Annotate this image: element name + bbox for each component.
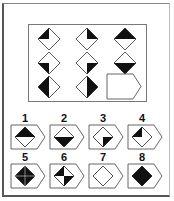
option-6[interactable]: 6 (49, 152, 85, 188)
diamond-top-half-icon (113, 27, 137, 51)
matrix-cell-r2c2 (75, 51, 99, 75)
option-number: 1 (10, 113, 40, 124)
option-number: 3 (88, 113, 118, 124)
diamond-bottom-half-icon (113, 51, 137, 75)
matrix-cell-r2c3 (113, 51, 137, 75)
option-1[interactable]: 1 (10, 113, 46, 149)
diamond-left-half-icon (37, 75, 61, 99)
diamond-bottom-right-quarter-icon (88, 124, 124, 150)
diamond-full-cross-icon (10, 163, 46, 189)
option-4[interactable]: 4 (127, 113, 163, 149)
diamond-full-black-icon (127, 163, 163, 189)
missing-answer-slot (106, 73, 142, 104)
option-8[interactable]: 8 (127, 152, 163, 188)
option-2[interactable]: 2 (49, 113, 85, 149)
matrix-cell-r2c1 (37, 51, 61, 75)
matrix-cell-r3c1 (37, 75, 61, 99)
diamond-top-right-quarter-icon (75, 27, 99, 51)
option-number: 4 (127, 113, 157, 124)
diamond-bottom-left-quarter-icon (37, 51, 61, 75)
matrix-cell-r1c3 (113, 27, 137, 51)
matrix-cell-r1c1 (37, 27, 61, 51)
option-number: 7 (88, 152, 118, 163)
puzzle-matrix (28, 24, 147, 102)
diamond-top-half-icon (10, 124, 46, 150)
option-7[interactable]: 7 (88, 152, 124, 188)
answer-options: 1 2 3 4 (10, 113, 164, 189)
diamond-empty-icon (88, 163, 124, 189)
diamond-bottom-half-icon (49, 124, 85, 150)
option-3[interactable]: 3 (88, 113, 124, 149)
option-number: 2 (49, 113, 79, 124)
diamond-opposite-quarters-icon (49, 163, 85, 189)
diamond-top-left-quarter-icon (127, 124, 163, 150)
option-5[interactable]: 5 (10, 152, 46, 188)
diamond-top-left-quarter-icon (37, 27, 61, 51)
diamond-bottom-right-quarter-icon (75, 51, 99, 75)
matrix-cell-r3c2 (75, 75, 99, 99)
matrix-cell-r1c2 (75, 27, 99, 51)
option-number: 8 (127, 152, 157, 163)
option-number: 6 (49, 152, 79, 163)
option-number: 5 (10, 152, 40, 163)
diamond-right-half-icon (75, 75, 99, 99)
